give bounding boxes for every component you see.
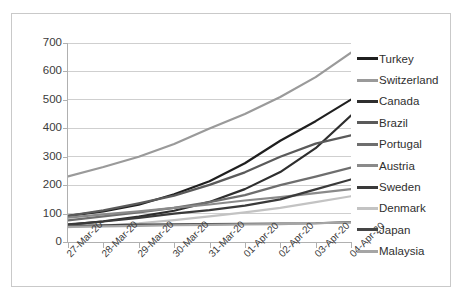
y-axis-tick-label: 300 [28,151,62,162]
legend-item[interactable]: Japan [357,219,462,240]
chart-frame: 7006005004003002001000 27-Mar-2028-Mar-2… [11,13,451,287]
series-lines [68,53,351,228]
legend-item[interactable]: Switzerland [357,69,462,90]
series-line [68,100,351,216]
legend-color-swatch [357,79,378,82]
chart-legend: TurkeySwitzerlandCanadaBrazilPortugalAus… [357,48,462,262]
legend-color-swatch [357,164,378,167]
legend-item[interactable]: Canada [357,91,462,112]
legend-color-swatch [357,228,378,231]
line-chart-canvas [68,43,351,242]
legend-item[interactable]: Turkey [357,48,462,69]
legend-item[interactable]: Sweden [357,176,462,197]
legend-item[interactable]: Brazil [357,112,462,133]
y-axis-tick-label: 700 [28,37,62,48]
legend-color-swatch [357,100,378,103]
legend-color-swatch [357,57,378,60]
y-axis-tick-label: 200 [28,179,62,190]
y-axis-tick-label: 100 [28,208,62,219]
legend-color-swatch [357,250,378,253]
plot-area [68,43,351,242]
legend-color-swatch [357,121,378,124]
y-axis-tick-label: 600 [28,65,62,76]
legend-item-label: Malaysia [379,245,424,257]
legend-item[interactable]: Malaysia [357,241,462,262]
legend-color-swatch [357,143,378,146]
y-axis-tick-label: 500 [28,94,62,105]
legend-item-label: Canada [379,95,419,107]
legend-item-label: Sweden [379,181,421,193]
legend-item-label: Denmark [379,202,426,214]
legend-item[interactable]: Austria [357,155,462,176]
legend-item-label: Turkey [379,53,414,65]
legend-item-label: Austria [379,160,415,172]
gridlines [68,43,351,242]
y-axis-tick-label: 400 [28,122,62,133]
legend-item[interactable]: Portugal [357,134,462,155]
y-axis-labels: 7006005004003002001000 [26,43,62,242]
legend-item-label: Brazil [379,117,408,129]
legend-item-label: Portugal [379,138,422,150]
y-axis-tick-label: 0 [28,236,62,247]
legend-item-label: Japan [379,224,410,236]
legend-item-label: Switzerland [379,74,438,86]
legend-color-swatch [357,207,378,210]
legend-color-swatch [357,186,378,189]
legend-item[interactable]: Denmark [357,198,462,219]
